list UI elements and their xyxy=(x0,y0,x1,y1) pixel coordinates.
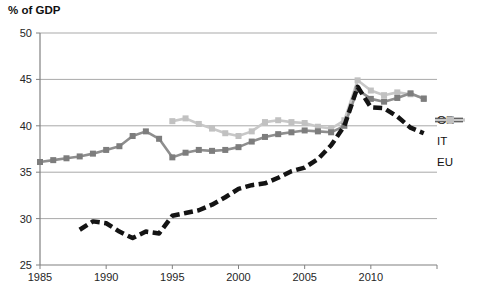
series-marker-it xyxy=(63,155,69,161)
series-marker-eu xyxy=(262,119,268,125)
series-marker-eu xyxy=(302,120,308,126)
series-marker-eu xyxy=(381,92,387,98)
series-marker-eu xyxy=(169,118,175,124)
plot-area: 253035404550198519901995200020052010 xyxy=(0,0,495,300)
x-tick-label: 1985 xyxy=(28,271,52,283)
series-marker-it xyxy=(103,147,109,153)
series-marker-it xyxy=(130,133,136,139)
series-marker-it xyxy=(222,147,228,153)
y-tick-label: 35 xyxy=(20,166,32,178)
series-marker-it xyxy=(275,131,281,137)
series-marker-eu xyxy=(236,133,242,139)
y-tick-label: 30 xyxy=(20,213,32,225)
y-tick-label: 50 xyxy=(20,27,32,39)
series-marker-it xyxy=(249,139,255,145)
chart: % of GDP 2530354045501985199019952000200… xyxy=(0,0,495,300)
series-marker-it xyxy=(77,153,83,159)
legend-label-eu: EU xyxy=(437,157,453,169)
series-marker-it xyxy=(381,99,387,105)
series-marker-it xyxy=(169,154,175,160)
series-marker-eu xyxy=(222,130,228,136)
series-marker-it xyxy=(262,134,268,140)
series-marker-it xyxy=(302,127,308,133)
legend: GR IT EU xyxy=(434,114,454,170)
x-tick-label: 1990 xyxy=(94,271,118,283)
series-marker-eu xyxy=(249,128,255,134)
series-line-gr xyxy=(80,87,424,238)
y-tick-label: 40 xyxy=(20,120,32,132)
series-marker-it xyxy=(156,136,162,142)
series-marker-eu xyxy=(196,121,202,127)
x-tick-label: 2010 xyxy=(359,271,383,283)
series-marker-it xyxy=(37,159,43,165)
series-marker-it xyxy=(236,144,242,150)
legend-label-it: IT xyxy=(437,136,447,148)
legend-item-it: IT xyxy=(434,135,454,149)
series-marker-it xyxy=(209,148,215,154)
series-marker-it xyxy=(50,157,56,163)
series-marker-eu xyxy=(288,119,294,125)
series-marker-it xyxy=(183,150,189,156)
series-marker-it xyxy=(116,143,122,149)
x-tick-label: 2005 xyxy=(292,271,316,283)
series-marker-it xyxy=(196,147,202,153)
series-marker-it xyxy=(90,151,96,157)
x-tick-label: 1995 xyxy=(160,271,184,283)
series-marker-it xyxy=(328,129,334,135)
series-marker-it xyxy=(143,128,149,134)
series-marker-eu xyxy=(183,115,189,121)
series-marker-eu xyxy=(355,77,361,83)
series-marker-eu xyxy=(368,88,374,94)
series-marker-eu xyxy=(275,117,281,123)
legend-item-eu: EU xyxy=(434,156,454,170)
series-marker-eu xyxy=(394,89,400,95)
y-tick-label: 45 xyxy=(20,73,32,85)
series-marker-it xyxy=(315,128,321,134)
series-marker-eu xyxy=(209,126,215,132)
x-tick-label: 2000 xyxy=(226,271,250,283)
series-marker-it xyxy=(288,129,294,135)
series-marker-it xyxy=(408,90,414,96)
series-marker-it xyxy=(394,95,400,101)
series-marker-it xyxy=(421,96,427,102)
y-tick-label: 25 xyxy=(20,259,32,271)
